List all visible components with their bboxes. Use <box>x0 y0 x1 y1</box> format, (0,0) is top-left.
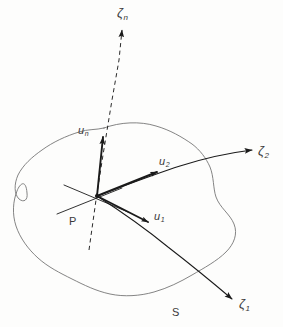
label-zeta-2: ζ2 <box>258 142 269 160</box>
label-zeta-n-sub: n <box>123 13 128 22</box>
label-u-2-sub: 2 <box>165 161 169 168</box>
tangent-vector-u2 <box>97 172 157 196</box>
tangent-plane-cross-line-secondary <box>57 188 122 214</box>
label-zeta-1: ζ1 <box>239 295 250 313</box>
label-point-p: P <box>69 212 76 228</box>
label-zeta-2-sub: 2 <box>264 151 269 160</box>
label-zeta-1-sub: 1 <box>245 304 250 313</box>
surface-vector-diagram: ζn ζ2 ζ1 un u2 u1 P S <box>0 0 283 327</box>
label-u-1: u1 <box>154 207 165 223</box>
label-zeta-n: ζn <box>117 4 128 22</box>
label-surface-s-base: S <box>172 306 179 318</box>
label-u-2: u2 <box>159 152 170 168</box>
label-u-1-sub: 1 <box>160 216 164 223</box>
diagram-canvas <box>0 0 283 327</box>
normal-vector-un <box>97 137 103 196</box>
label-u-n: un <box>78 121 89 137</box>
tangent-vector-u1 <box>97 196 148 222</box>
label-point-p-base: P <box>69 215 76 227</box>
label-surface-s: S <box>172 303 179 319</box>
point-p-marker <box>95 194 99 198</box>
normal-axis-dashed-line <box>89 30 122 250</box>
label-u-n-sub: n <box>84 130 88 137</box>
